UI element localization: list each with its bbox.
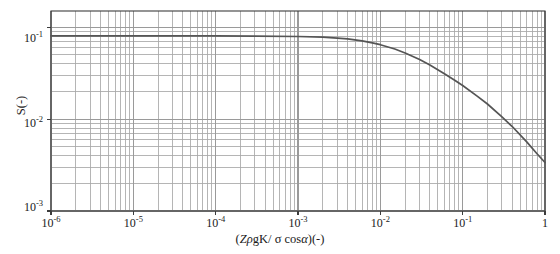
x-tick-exponent-5: -1: [465, 214, 472, 224]
x-tick-exponent-4: -2: [383, 214, 390, 224]
x-tick-exponent-2: -4: [218, 214, 225, 224]
x-axis-title-gk: gK: [253, 232, 268, 246]
x-tick-label-2: 10-4: [206, 217, 225, 229]
y-tick-label-2: 10-3: [24, 201, 43, 213]
x-tick-exponent-0: -6: [54, 214, 61, 224]
y-tick-exponent-2: -3: [36, 198, 43, 208]
x-tick-exponent-3: -3: [301, 214, 308, 224]
x-tick-label-0: 10-6: [42, 217, 61, 229]
y-tick-label-0: 10-1: [24, 32, 43, 44]
x-axis-title-cos: cos: [281, 232, 301, 246]
x-axis-title: (ZρgK/ σ cosα)(-): [0, 232, 560, 247]
chart-plot-area: [0, 0, 560, 254]
x-tick-label-3: 10-3: [289, 217, 308, 229]
x-tick-exponent-1: -5: [136, 214, 143, 224]
y-axis-title: S(-): [14, 81, 29, 131]
chart-figure: 10-610-510-410-310-210-11 10-110-210-3 (…: [0, 0, 560, 254]
x-axis-title-close: )(-): [308, 232, 325, 246]
x-axis-title-slash: /: [268, 232, 275, 246]
x-axis-title-z: Z: [240, 232, 247, 246]
x-tick-label-4: 10-2: [371, 217, 390, 229]
axis-ticks: [47, 27, 545, 215]
y-tick-exponent-1: -2: [36, 114, 43, 124]
x-tick-label-1: 10-5: [124, 217, 143, 229]
y-tick-exponent-0: -1: [36, 29, 43, 39]
x-tick-label-6: 1: [542, 217, 548, 229]
x-tick-label-5: 10-1: [453, 217, 472, 229]
